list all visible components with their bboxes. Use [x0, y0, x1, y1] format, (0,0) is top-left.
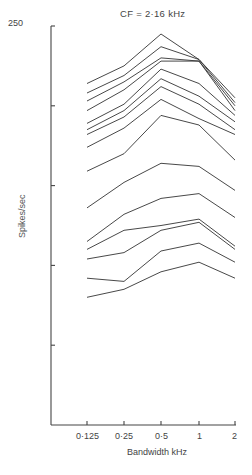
y-tick-label-250: 250: [8, 18, 23, 28]
chart-title: CF = 2·16 kHz: [120, 8, 185, 19]
x-axis-label: Bandwidth kHz: [127, 447, 187, 457]
x-tick-label-025: 0·25: [115, 431, 133, 441]
x-tick-label-2: 2: [232, 431, 237, 441]
series-line-curve-14: [87, 243, 235, 281]
y-axis-label: Spikes/sec: [17, 194, 27, 238]
series-line-curve-4: [87, 61, 235, 111]
series-line-curve-1: [87, 34, 235, 98]
chart-plot-area: [0, 0, 252, 475]
series-line-curve-8: [87, 99, 235, 147]
series-line-curve-11: [87, 194, 235, 242]
x-tick-label-05: 0·5: [155, 431, 168, 441]
series-line-curve-10: [87, 163, 235, 208]
x-tick-label-1: 1: [197, 431, 202, 441]
x-tick-label-0125: 0·125: [76, 431, 99, 441]
series-line-curve-12: [87, 219, 235, 249]
series-line-curve-7: [87, 87, 235, 135]
series-line-curve-13: [87, 222, 235, 259]
data-lines: [87, 34, 235, 297]
